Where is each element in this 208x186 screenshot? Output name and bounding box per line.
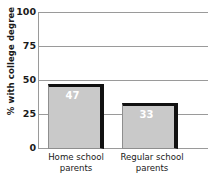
- bar-chart-figure: % with college degree 100 75 50 25 0 47 …: [0, 0, 208, 186]
- category-label-line-1: Home school: [40, 152, 112, 163]
- y-tick-label-100: 100: [14, 7, 36, 17]
- y-axis-spine: [38, 12, 39, 149]
- plot-area: 47 33 Home school parents Regular school…: [38, 0, 208, 186]
- gridline-75: [38, 46, 208, 47]
- gridline-50: [38, 80, 208, 81]
- y-axis-tick-labels: 100 75 50 25 0: [12, 0, 36, 186]
- y-tick-label-25: 25: [14, 109, 36, 119]
- y-tick-label-75: 75: [14, 41, 36, 51]
- bar-value-label-1: 33: [123, 110, 170, 120]
- category-label-line-2: parents: [114, 163, 190, 174]
- gridline-100: [38, 12, 208, 13]
- category-label-line-2: parents: [40, 163, 112, 174]
- y-tick-label-50: 50: [14, 75, 36, 85]
- category-label-line-1: Regular school: [114, 152, 190, 163]
- category-label-regular-school-parents: Regular school parents: [114, 152, 190, 173]
- bar-home-school-parents[interactable]: 47: [48, 84, 104, 149]
- category-label-home-school-parents: Home school parents: [40, 152, 112, 173]
- bar-value-label-0: 47: [49, 91, 96, 101]
- y-tick-label-0: 0: [14, 143, 36, 153]
- bar-regular-school-parents[interactable]: 33: [122, 103, 178, 149]
